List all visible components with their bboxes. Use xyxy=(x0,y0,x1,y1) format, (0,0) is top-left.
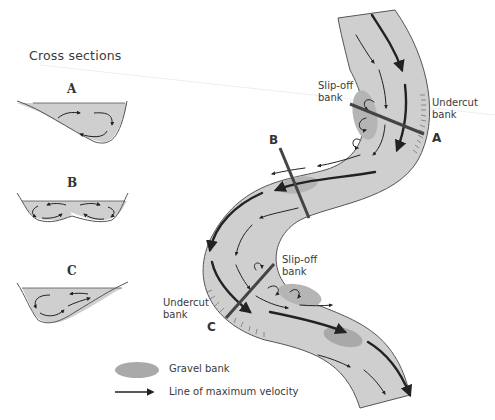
cross-section-a-label: A xyxy=(67,82,76,96)
slip-off-bank-top-label: Slip-off bank xyxy=(318,80,353,104)
cross-section-a xyxy=(17,101,127,143)
section-a-marker: A xyxy=(432,131,441,145)
cross-section-c-label: C xyxy=(67,264,77,278)
undercut-bank-bottom-label: Undercut bank xyxy=(163,297,209,321)
legend-gravel-swatch xyxy=(115,362,159,378)
cross-sections-title: Cross sections xyxy=(29,48,122,63)
section-b-marker: B xyxy=(269,133,278,147)
section-c-marker: C xyxy=(207,320,216,334)
legend-gravel-label: Gravel bank xyxy=(169,363,230,375)
cross-section-c xyxy=(17,282,128,323)
undercut-bank-top-label: Undercut bank xyxy=(432,97,478,121)
cross-section-b xyxy=(17,193,128,222)
legend-velocity-label: Line of maximum velocity xyxy=(169,386,298,398)
cross-section-b-label: B xyxy=(67,176,77,190)
slip-off-bank-bottom-label: Slip-off bank xyxy=(282,254,317,278)
meander-diagram xyxy=(0,0,495,420)
